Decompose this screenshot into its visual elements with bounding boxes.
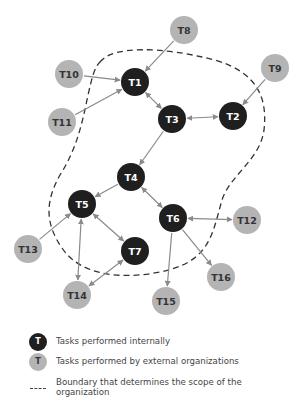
legend-item-external: T Tasks performed by external organizati… xyxy=(28,352,276,372)
legend-item-internal: T Tasks performed internally xyxy=(28,332,276,352)
edge-T8-T1 xyxy=(145,41,173,71)
edge-T6-T12 xyxy=(188,218,232,219)
task-node-t6: T6 xyxy=(159,204,187,232)
dashed-line-icon xyxy=(30,388,46,389)
edge-T6-T16 xyxy=(182,230,211,266)
edge-T3-T2 xyxy=(187,117,218,119)
legend-label: Boundary that determines the scope of th… xyxy=(56,373,276,397)
edge-T4-T5 xyxy=(95,184,118,197)
internal-task-symbol-icon: T xyxy=(29,333,47,351)
task-node-t3: T3 xyxy=(158,105,186,133)
edge-T3-T4 xyxy=(140,131,164,165)
task-node-t9: T9 xyxy=(261,54,289,82)
edge-T10-T1 xyxy=(84,76,120,80)
task-node-t8: T8 xyxy=(170,16,198,44)
svg-text:T5: T5 xyxy=(75,199,88,210)
svg-text:T6: T6 xyxy=(166,213,179,224)
task-node-t4: T4 xyxy=(117,163,145,191)
svg-text:T13: T13 xyxy=(18,244,38,255)
task-node-t7: T7 xyxy=(121,237,149,265)
organization-boundary xyxy=(49,50,265,276)
task-node-t11: T11 xyxy=(48,108,76,136)
task-node-t1: T1 xyxy=(121,68,149,96)
external-task-symbol-icon: T xyxy=(29,353,47,371)
task-network-diagram: T1T2T3T4T5T6T7T8T9T10T11T12T13T14T15T16 xyxy=(0,0,303,330)
svg-text:T12: T12 xyxy=(237,215,257,226)
svg-text:T10: T10 xyxy=(59,69,79,80)
task-node-t5: T5 xyxy=(68,190,96,218)
svg-text:T4: T4 xyxy=(124,172,137,183)
svg-text:T3: T3 xyxy=(165,114,178,125)
task-node-t16: T16 xyxy=(207,263,235,291)
task-node-t15: T15 xyxy=(152,287,180,315)
edge-T11-T1 xyxy=(75,89,122,115)
legend-label: Tasks performed by external organization… xyxy=(56,352,276,366)
svg-text:T14: T14 xyxy=(67,290,87,301)
svg-text:T7: T7 xyxy=(128,246,141,257)
task-node-t14: T14 xyxy=(63,281,91,309)
edge-T7-T14 xyxy=(89,260,123,286)
task-node-t10: T10 xyxy=(55,60,83,88)
edge-T5-T14 xyxy=(78,219,81,280)
edge-T4-T6 xyxy=(142,187,163,207)
edge-T5-T7 xyxy=(93,214,124,241)
svg-text:T11: T11 xyxy=(52,117,72,128)
svg-text:T16: T16 xyxy=(211,272,231,283)
legend-item-boundary: Boundary that determines the scope of th… xyxy=(28,373,276,397)
svg-text:T8: T8 xyxy=(177,25,190,36)
task-node-t2: T2 xyxy=(219,102,247,130)
svg-text:T2: T2 xyxy=(226,111,239,122)
legend-label: Tasks performed internally xyxy=(56,332,276,346)
edge-T1-T3 xyxy=(146,93,162,109)
nodes-layer: T1T2T3T4T5T6T7T8T9T10T11T12T13T14T15T16 xyxy=(14,16,289,315)
edge-T6-T15 xyxy=(167,233,171,286)
svg-text:T1: T1 xyxy=(128,77,141,88)
svg-text:T15: T15 xyxy=(156,296,176,307)
task-node-t12: T12 xyxy=(233,206,261,234)
task-node-t13: T13 xyxy=(14,235,42,263)
svg-text:T9: T9 xyxy=(268,63,281,74)
